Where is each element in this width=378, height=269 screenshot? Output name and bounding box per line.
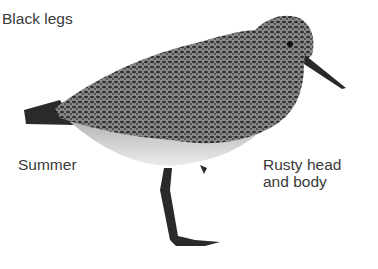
label-summer: Summer: [18, 156, 77, 173]
label-line-1: Rusty head: [263, 156, 341, 173]
eye: [287, 41, 293, 47]
bill: [304, 55, 346, 89]
bird-illustration: [0, 0, 378, 269]
label-black-legs: Black legs: [2, 10, 73, 27]
leg: [160, 168, 220, 246]
label-rusty-head-body: Rusty head and body: [263, 156, 341, 190]
label-line-2: and body: [263, 173, 341, 190]
raised-foot: [200, 165, 207, 174]
